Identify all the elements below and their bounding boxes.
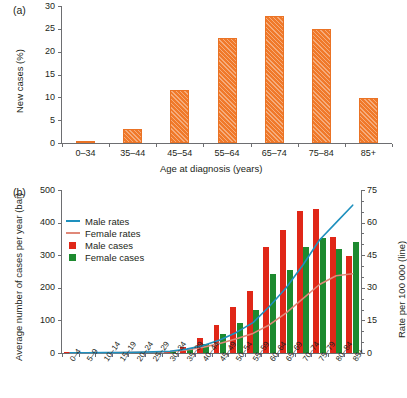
panel-b-y2-minor-tick-20 bbox=[362, 310, 364, 311]
legend-line-swatch-1 bbox=[66, 232, 80, 234]
panel-b-y2-tick-0: 0 bbox=[367, 348, 391, 358]
panel-a-y-tick-10: 10 bbox=[33, 92, 55, 102]
panel-b-x-tickmark-3 bbox=[112, 354, 113, 357]
panel-a-bar-55–64 bbox=[218, 38, 237, 143]
panel-b-y2-minor-tick-70 bbox=[362, 201, 364, 202]
panel-b: (b) Average number of cases per year (ba… bbox=[0, 178, 406, 398]
panel-a-x-label-55–64: 55–64 bbox=[201, 148, 253, 158]
panel-a-plot-area bbox=[62, 6, 392, 143]
panel-b-y-tick-200: 200 bbox=[28, 282, 55, 292]
panel-a-bar-65–74 bbox=[265, 16, 284, 143]
panel-b-y-tick-500: 500 bbox=[28, 185, 55, 195]
panel-b-y-tick-0: 0 bbox=[28, 348, 55, 358]
panel-a-bar-85+ bbox=[359, 98, 378, 143]
panel-b-y2-minor-tick-65 bbox=[362, 212, 364, 213]
panel-b-y2-tickmark-45 bbox=[362, 255, 365, 256]
panel-a-x-tickmark-end bbox=[392, 144, 393, 147]
panel-b-y2-tickmark-75 bbox=[362, 190, 365, 191]
panel-b-y2-tickmark-15 bbox=[362, 320, 365, 321]
panel-b-x-tickmark-9 bbox=[212, 354, 213, 357]
panel-a-x-label-45–54: 45–54 bbox=[154, 148, 206, 158]
panel-b-y2-tickmark-30 bbox=[362, 288, 365, 289]
panel-b-x-tickmark-1 bbox=[79, 354, 80, 357]
panel-b-y2-tick-45: 45 bbox=[367, 250, 391, 260]
panel-a-x-tickmark-1 bbox=[109, 144, 110, 147]
panel-b-x-tickmark-11 bbox=[245, 354, 246, 357]
panel-b-y2-axis-line bbox=[361, 190, 362, 353]
panel-a-y-axis-title: New cases (%) bbox=[14, 49, 25, 113]
panel-b-x-tickmark-12 bbox=[261, 354, 262, 357]
panel-a: (a) New cases (%) 051015202530 0–3435–44… bbox=[0, 0, 406, 178]
panel-a-x-tickmark-6 bbox=[345, 144, 346, 147]
panel-b-x-tickmark-0 bbox=[62, 354, 63, 357]
panel-a-bar-0–34 bbox=[76, 141, 95, 143]
panel-b-x-tickmark-2 bbox=[95, 354, 96, 357]
panel-b-x-tickmark-8 bbox=[195, 354, 196, 357]
panel-b-y2-tick-15: 15 bbox=[367, 315, 391, 325]
panel-b-x-tickmark-16 bbox=[328, 354, 329, 357]
panel-b-x-tickmark-15 bbox=[311, 354, 312, 357]
panel-b-y2-tick-75: 75 bbox=[367, 185, 391, 195]
panel-a-y-tick-25: 25 bbox=[33, 23, 55, 33]
panel-a-x-axis-line bbox=[61, 143, 392, 144]
panel-b-y-tick-300: 300 bbox=[28, 250, 55, 260]
panel-b-x-tickmark-4 bbox=[128, 354, 129, 357]
panel-b-y-axis-title: Average number of cases per year (bar) bbox=[13, 193, 24, 361]
panel-b-x-tickmark-6 bbox=[162, 354, 163, 357]
panel-b-x-tickmark-17 bbox=[344, 354, 345, 357]
panel-b-y2-minor-tick-50 bbox=[362, 244, 364, 245]
legend-label-1: Female rates bbox=[85, 228, 140, 239]
panel-a-tag: (a) bbox=[13, 4, 26, 16]
panel-b-y-tick-100: 100 bbox=[28, 315, 55, 325]
panel-a-x-label-85+: 85+ bbox=[342, 148, 394, 158]
legend-line-swatch-0 bbox=[66, 220, 80, 222]
panel-b-y2-minor-tick-25 bbox=[362, 299, 364, 300]
panel-a-bar-45–54 bbox=[170, 90, 189, 143]
legend-box-swatch-3 bbox=[69, 254, 76, 261]
panel-a-x-tickmark-4 bbox=[251, 144, 252, 147]
panel-b-y2-axis-title: Rate per 100 000 (line) bbox=[396, 241, 407, 338]
panel-b-x-tickmark-13 bbox=[278, 354, 279, 357]
panel-a-bar-75–84 bbox=[312, 29, 331, 143]
panel-b-y2-minor-tick-40 bbox=[362, 266, 364, 267]
panel-a-bar-35–44 bbox=[123, 129, 142, 143]
panel-a-y-tick-5: 5 bbox=[33, 115, 55, 125]
panel-a-x-label-75–84: 75–84 bbox=[295, 148, 347, 158]
panel-b-y2-tick-30: 30 bbox=[367, 282, 391, 292]
panel-b-x-tickmark-14 bbox=[295, 354, 296, 357]
panel-b-y2-minor-tick-10 bbox=[362, 331, 364, 332]
panel-b-x-tickmark-7 bbox=[178, 354, 179, 357]
panel-b-x-tickmark-5 bbox=[145, 354, 146, 357]
panel-a-y-tick-30: 30 bbox=[33, 1, 55, 11]
panel-b-y-tick-400: 400 bbox=[28, 217, 55, 227]
panel-a-x-tickmark-2 bbox=[156, 144, 157, 147]
panel-a-x-tickmark-0 bbox=[62, 144, 63, 147]
panel-a-x-axis-title: Age at diagnosis (years) bbox=[160, 163, 262, 174]
panel-b-y2-tickmark-60 bbox=[362, 223, 365, 224]
panel-b-line-overlay bbox=[62, 190, 361, 353]
legend-label-3: Female cases bbox=[85, 252, 144, 263]
panel-a-x-tickmark-3 bbox=[203, 144, 204, 147]
legend-label-2: Male cases bbox=[85, 240, 133, 251]
panel-a-y-tick-0: 0 bbox=[33, 138, 55, 148]
panel-a-y-tick-20: 20 bbox=[33, 46, 55, 56]
panel-b-y2-tick-60: 60 bbox=[367, 217, 391, 227]
legend-label-0: Male rates bbox=[85, 216, 129, 227]
panel-a-x-label-35–44: 35–44 bbox=[107, 148, 159, 158]
panel-b-y2-minor-tick-35 bbox=[362, 277, 364, 278]
panel-a-x-label-0–34: 0–34 bbox=[60, 148, 112, 158]
panel-a-y-tick-15: 15 bbox=[33, 69, 55, 79]
panel-a-x-tickmark-5 bbox=[298, 144, 299, 147]
legend-box-swatch-2 bbox=[69, 242, 76, 249]
panel-b-y2-minor-tick-5 bbox=[362, 342, 364, 343]
panel-b-y2-minor-tick-55 bbox=[362, 233, 364, 234]
panel-a-x-label-65–74: 65–74 bbox=[248, 148, 300, 158]
panel-b-x-tickmark-10 bbox=[228, 354, 229, 357]
